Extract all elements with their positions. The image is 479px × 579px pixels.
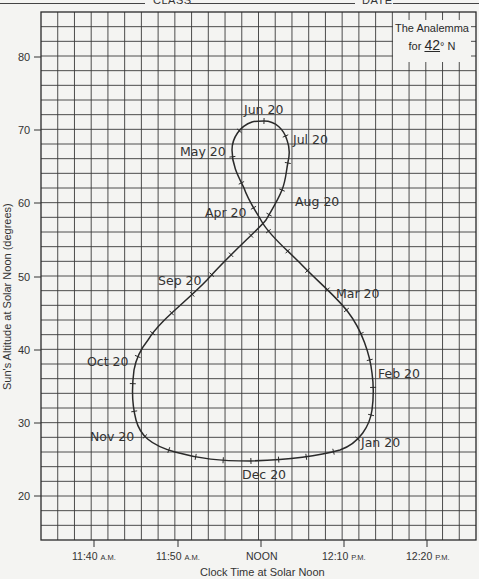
x-tick-1220: 12:20 P.M. [406, 550, 450, 562]
x-axis-title: Clock Time at Solar Noon [200, 566, 325, 578]
latitude-value: 42 [424, 37, 440, 53]
label-may-20: May 20 [180, 144, 226, 159]
label-jun-20: Jun 20 [243, 102, 283, 117]
y-tick-30: 30 [18, 417, 30, 429]
label-sep-20: Sep 20 [158, 273, 201, 288]
y-axis: 80 70 60 50 40 30 20 [18, 51, 41, 502]
y-tick-50: 50 [18, 271, 30, 283]
x-tick-1210: 12:10 P.M. [322, 550, 366, 562]
analemma-chart: 80 70 60 50 40 30 20 Sun's Altitude at S… [0, 0, 479, 579]
x-tick-1140: 11:40 A.M. [72, 550, 116, 562]
label-dec-20: Dec 20 [242, 467, 286, 482]
label-oct-20: Oct 20 [87, 354, 129, 369]
y-tick-20: 20 [18, 490, 30, 502]
chart-title-box: The Analemma for 42° N [393, 20, 471, 62]
y-tick-60: 60 [18, 197, 30, 209]
label-nov-20: Nov 20 [90, 429, 134, 444]
label-aug-20: Aug 20 [295, 194, 339, 209]
chart-title: The Analemma [393, 20, 471, 37]
x-axis: 11:40 A.M. 11:50 A.M. NOON 12:10 P.M. 12… [72, 540, 450, 562]
y-tick-70: 70 [18, 124, 30, 136]
y-axis-title: Sun's Altitude at Solar Noon (degrees) [1, 203, 13, 390]
label-jul-20: Jul 20 [292, 132, 328, 147]
label-apr-20: Apr 20 [205, 205, 247, 220]
label-feb-20: Feb 20 [378, 366, 420, 381]
chart-subtitle: for 42° N [393, 37, 471, 55]
label-mar-20: Mar 20 [336, 286, 380, 301]
x-tick-1150: 11:50 A.M. [156, 550, 200, 562]
y-tick-80: 80 [18, 51, 30, 63]
x-tick-noon: NOON [246, 550, 278, 562]
label-jan-20: Jan 20 [360, 435, 400, 450]
y-tick-40: 40 [18, 344, 30, 356]
